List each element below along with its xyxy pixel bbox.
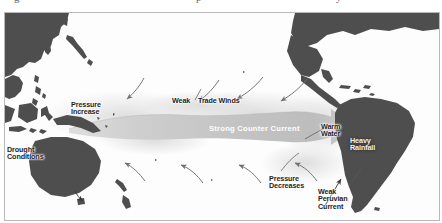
- label-warm-water: Warm Water: [321, 123, 340, 138]
- cut-off-glyph: p: [196, 0, 202, 3]
- cut-off-caption-row: g p y: [0, 0, 442, 11]
- label-weak-peruvian-current: Weak Peruvian Current: [318, 188, 348, 210]
- world-map-graphic: [5, 13, 439, 220]
- label-pressure-increase: Pressure Increase: [71, 101, 101, 116]
- label-strong-counter-current: Strong Counter Current: [209, 125, 300, 133]
- cut-off-glyph: y: [336, 0, 342, 3]
- label-drought-conditions: Drought Conditions: [7, 146, 44, 161]
- label-heavy-rainfall: Heavy Rainfall: [350, 137, 375, 152]
- label-trade-winds: Trade Winds: [198, 97, 240, 104]
- cut-off-glyph: g: [14, 0, 20, 3]
- map-panel: Pressure Increase Drought Conditions Wea…: [4, 12, 440, 221]
- label-pressure-decreases: Pressure Decreases: [269, 175, 304, 190]
- el-nino-figure: g p y: [0, 0, 442, 223]
- label-weak: Weak: [172, 97, 190, 104]
